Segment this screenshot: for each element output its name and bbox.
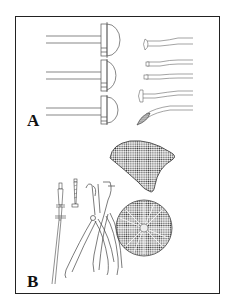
probe-3 <box>144 74 193 79</box>
angled-probes <box>137 38 193 125</box>
circular-mesh-disc <box>116 200 172 256</box>
probe-2 <box>146 60 193 66</box>
probe-1 <box>144 38 194 50</box>
probe-4 <box>139 90 194 102</box>
instrument-illustration <box>0 0 231 302</box>
hemisphere-instrument-3 <box>46 95 118 125</box>
panel-label-b: B <box>27 273 38 290</box>
panel-label-a: A <box>27 112 39 129</box>
probe-5 <box>137 106 193 125</box>
hemisphere-instruments <box>46 22 120 125</box>
hemisphere-instrument-2 <box>46 59 116 92</box>
triangular-mesh-plate <box>110 141 175 192</box>
pliers-1 <box>65 184 114 278</box>
long-instrument <box>52 183 66 284</box>
screw <box>72 179 78 207</box>
hemisphere-instrument-1 <box>46 22 120 58</box>
